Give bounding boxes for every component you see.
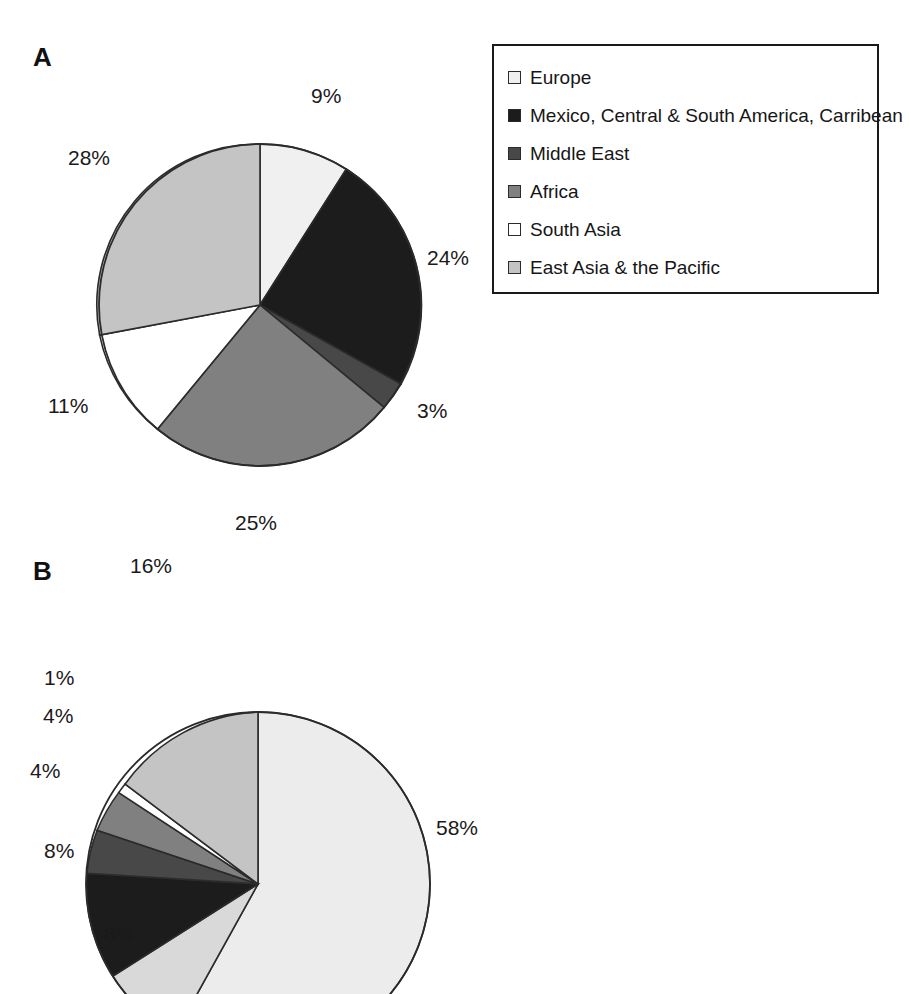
legend-swatch-icon-africa (508, 185, 521, 198)
legend-swatch-icon-east-asia (508, 261, 521, 274)
pie-a-label-11: 11% (48, 395, 88, 416)
legend-a-item-europe[interactable]: Europe (508, 58, 877, 96)
pie-a-label-28: 28% (68, 147, 110, 168)
legend-a-item-africa[interactable]: Africa (508, 172, 877, 210)
pie-b-label-58: 58% (436, 817, 478, 838)
panel-b: B 16% 1% 4% 4% 8% 8% 58% Europe (0, 545, 909, 994)
pie-b-label-16: 16% (130, 555, 172, 576)
pie-chart-b (82, 708, 434, 994)
legend-a-label-europe: Europe (530, 68, 591, 87)
pie-b-label-4-middle-east: 4% (30, 760, 60, 781)
pie-b-label-1: 1% (44, 667, 74, 688)
legend-a-label-east-asia: East Asia & the Pacific (530, 258, 720, 277)
pie-b-label-8-usa-canada: 8% (104, 923, 134, 944)
legend-swatch-icon-mexico (508, 109, 521, 122)
legend-a-label-south-asia: South Asia (530, 220, 621, 239)
panel-b-letter: B (33, 558, 52, 584)
pie-b-svg (82, 708, 434, 994)
pie-a-label-9: 9% (311, 85, 341, 106)
pie-a-label-24: 24% (427, 247, 469, 268)
pie-b-label-8-mexico: 8% (44, 840, 74, 861)
pie-a-svg (95, 140, 425, 470)
legend-a-item-east-asia[interactable]: East Asia & the Pacific (508, 248, 877, 286)
panel-a-letter: A (33, 44, 52, 70)
pie-a-slice-east-asia-pacific (97, 144, 260, 335)
legend-a-label-middle-east: Middle East (530, 144, 629, 163)
legend-a-item-mexico[interactable]: Mexico, Central & South America, Carribe… (508, 96, 877, 134)
legend-a-item-south-asia[interactable]: South Asia (508, 210, 877, 248)
panel-a: A 9% 24% 3% 25% 11% 28% Europe (0, 0, 909, 545)
pie-a-label-3: 3% (417, 400, 447, 421)
pie-chart-a (95, 140, 425, 470)
legend-swatch-icon-south-asia (508, 223, 521, 236)
legend-a: Europe Mexico, Central & South America, … (492, 44, 879, 294)
legend-a-label-africa: Africa (530, 182, 579, 201)
pie-a-label-25: 25% (235, 512, 277, 533)
legend-a-item-middle-east[interactable]: Middle East (508, 134, 877, 172)
legend-swatch-icon-europe (508, 71, 521, 84)
legend-a-label-mexico: Mexico, Central & South America, Carribe… (530, 106, 903, 125)
legend-swatch-icon-middle-east (508, 147, 521, 160)
pie-b-label-4-africa: 4% (43, 705, 73, 726)
